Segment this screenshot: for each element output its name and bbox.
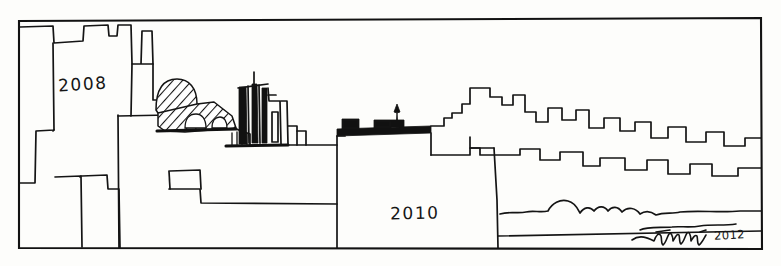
left-tall-slab [131, 64, 132, 116]
signature-year: 2012 [714, 227, 746, 243]
lower-step-profile-mid [119, 190, 120, 248]
left-building-mid-contour [53, 130, 54, 131]
year-label-2008: 2008 [57, 73, 108, 96]
bridge-ramp-deck [226, 145, 288, 146]
bridge-deck [157, 129, 236, 131]
left-lowstep-riser [169, 171, 170, 189]
skyline-drawing-canvas [0, 0, 781, 266]
left-midlow-slab [80, 176, 81, 177]
year-label-2010: 2010 [390, 202, 440, 223]
skyline-sketch-artwork: 2008 2010 2012 [0, 0, 781, 266]
